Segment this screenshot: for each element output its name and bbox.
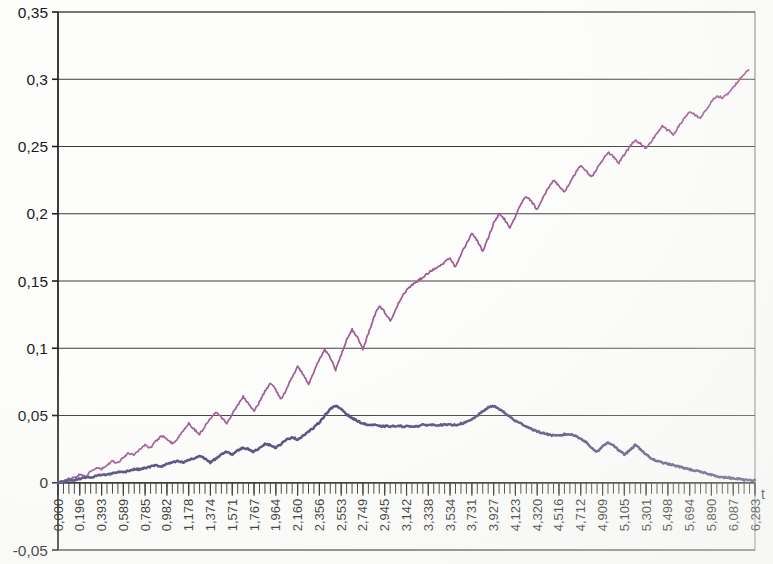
x-tick-label: 4,516 xyxy=(551,499,566,532)
y-tick-label: 0 xyxy=(39,474,48,491)
x-tick-label: 3,927 xyxy=(486,499,501,532)
x-tick-label: 2,945 xyxy=(377,499,392,532)
x-tick-label: 0,196 xyxy=(72,499,87,532)
y-tick-label: 0,3 xyxy=(26,71,48,88)
x-tick-label: 1,178 xyxy=(181,499,196,532)
y-tick-label: 0,15 xyxy=(18,273,48,290)
x-axis: 0,0000,1960,3930,5890,7850,9821,1781,374… xyxy=(51,483,766,532)
series-line-1 xyxy=(58,70,749,483)
x-tick-label: 0,982 xyxy=(159,499,174,532)
y-tick-label: 0,05 xyxy=(18,407,48,424)
x-tick-label: 2,553 xyxy=(334,499,349,532)
x-tick-label: 0,589 xyxy=(116,499,131,532)
x-tick-label: 1,374 xyxy=(203,499,218,532)
y-tick-label: 0,25 xyxy=(18,138,48,155)
chart-container: 0,350,30,250,20,150,10,050-0,050,0000,19… xyxy=(0,0,773,564)
x-tick-label: 2,356 xyxy=(312,499,327,532)
series-group xyxy=(58,70,755,483)
x-tick-label: 4,123 xyxy=(508,499,523,532)
x-tick-label: 3,142 xyxy=(399,499,414,532)
line-chart: 0,350,30,250,20,150,10,050-0,050,0000,19… xyxy=(0,0,773,564)
x-tick-label: 3,534 xyxy=(443,499,458,532)
y-tick-label: -0,05 xyxy=(13,542,48,559)
x-tick-label: 1,571 xyxy=(225,499,240,532)
y-tick-label: 0,2 xyxy=(26,205,48,222)
x-tick-label: 5,694 xyxy=(682,499,697,532)
x-tick-label: 1,964 xyxy=(268,499,283,532)
x-tick-label: 4,909 xyxy=(595,499,610,532)
x-tick-label: 6,283 xyxy=(748,499,763,532)
x-tick-label: 4,320 xyxy=(530,499,545,532)
series-line-2 xyxy=(58,406,755,483)
y-gridlines xyxy=(58,12,755,550)
x-tick-label: 5,301 xyxy=(639,499,654,532)
y-tick-label: 0,1 xyxy=(26,340,48,357)
x-tick-label: 4,712 xyxy=(573,499,588,532)
x-tick-label: 5,498 xyxy=(660,499,675,532)
y-tick-label: 0,35 xyxy=(18,4,48,21)
x-tick-label: 3,731 xyxy=(464,499,479,532)
x-tick-label: 5,105 xyxy=(617,499,632,532)
x-axis-title: t xyxy=(761,486,765,502)
x-tick-label: 1,767 xyxy=(247,499,262,532)
x-tick-label: 3,338 xyxy=(421,499,436,532)
x-tick-label: 0,393 xyxy=(94,499,109,532)
x-tick-label: 2,160 xyxy=(290,499,305,532)
x-tick-label: 0,000 xyxy=(51,499,66,532)
y-axis: 0,350,30,250,20,150,10,050-0,05 xyxy=(13,4,58,559)
x-tick-label: 6,087 xyxy=(726,499,741,532)
x-tick-label: 5,890 xyxy=(704,499,719,532)
x-tick-label: 2,749 xyxy=(355,499,370,532)
x-tick-label: 0,785 xyxy=(138,499,153,532)
